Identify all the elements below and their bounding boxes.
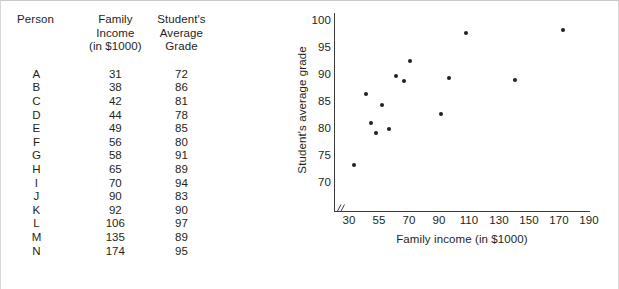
- table-row: N17495: [9, 245, 214, 259]
- table-row: G5891: [9, 149, 214, 163]
- table-row: D4478: [9, 109, 214, 123]
- table-row: J9083: [9, 190, 214, 204]
- table-cell-income: 135: [82, 231, 149, 245]
- table-cell-grade: 91: [149, 149, 214, 163]
- data-point: [387, 127, 391, 131]
- table-cell-income: 65: [82, 163, 149, 177]
- x-tick-label: 190: [574, 215, 604, 227]
- table-row: A3172: [9, 56, 214, 82]
- table-cell-income: 44: [82, 109, 149, 123]
- table-cell-grade: 81: [149, 95, 214, 109]
- table-cell-income: 31: [82, 56, 149, 82]
- column-header-family-income: Family Income (in $1000): [82, 13, 149, 56]
- table-cell-grade: 80: [149, 136, 214, 150]
- table-cell-grade: 95: [149, 245, 214, 259]
- table-cell-grade: 72: [149, 56, 214, 82]
- x-axis-line: [334, 211, 590, 212]
- table-cell-grade: 85: [149, 122, 214, 136]
- table-row: E4985: [9, 122, 214, 136]
- table-cell-person: C: [9, 95, 82, 109]
- column-header-grade-line1: Student's: [149, 13, 214, 27]
- table-cell-income: 56: [82, 136, 149, 150]
- table-cell-grade: 97: [149, 217, 214, 231]
- table-cell-income: 49: [82, 122, 149, 136]
- x-tick-label: 90: [424, 215, 454, 227]
- table-cell-income: 42: [82, 95, 149, 109]
- data-point: [369, 121, 373, 125]
- table-row: B3886: [9, 81, 214, 95]
- table-row: M13589: [9, 231, 214, 245]
- table-cell-income: 70: [82, 177, 149, 191]
- table-body: A3172B3886C4281D4478E4985F5680G5891H6589…: [9, 56, 214, 258]
- x-tick-label: 150: [514, 215, 544, 227]
- table-cell-person: M: [9, 231, 82, 245]
- table-cell-grade: 78: [149, 109, 214, 123]
- table-cell-grade: 83: [149, 190, 214, 204]
- plot-area: 707580859095100 30557090110130150170190 …: [286, 1, 619, 289]
- table-header-row: Person Family Income (in $1000) Student'…: [9, 13, 214, 56]
- table-cell-income: 90: [82, 190, 149, 204]
- column-header-grade-line3: Grade: [149, 40, 214, 54]
- table-cell-income: 38: [82, 81, 149, 95]
- x-tick-label: 30: [334, 215, 364, 227]
- table-cell-grade: 90: [149, 204, 214, 218]
- x-tick-label: 110: [454, 215, 484, 227]
- column-header-person: Person: [9, 13, 82, 56]
- table-row: H6589: [9, 163, 214, 177]
- table-cell-grade: 94: [149, 177, 214, 191]
- table-cell-person: A: [9, 56, 82, 82]
- table-cell-person: D: [9, 109, 82, 123]
- table: Person Family Income (in $1000) Student'…: [9, 13, 214, 258]
- x-tick-label: 70: [394, 215, 424, 227]
- column-header-person-line1: Person: [17, 13, 82, 27]
- table-cell-income: 106: [82, 217, 149, 231]
- x-tick-label: 130: [484, 215, 514, 227]
- column-header-income-line3: (in $1000): [82, 40, 149, 54]
- table-cell-person: I: [9, 177, 82, 191]
- scatter-plot: 707580859095100 30557090110130150170190 …: [286, 1, 619, 289]
- table-cell-person: N: [9, 245, 82, 259]
- table-cell-income: 174: [82, 245, 149, 259]
- table-cell-person: J: [9, 190, 82, 204]
- table-cell-person: E: [9, 122, 82, 136]
- table-cell-grade: 89: [149, 163, 214, 177]
- x-tick-label: 170: [544, 215, 574, 227]
- data-point: [561, 28, 565, 32]
- data-point: [513, 78, 517, 82]
- data-point: [352, 163, 356, 167]
- table-cell-person: K: [9, 204, 82, 218]
- data-point: [464, 31, 468, 35]
- column-header-income-line1: Family: [82, 13, 149, 27]
- table-cell-person: G: [9, 149, 82, 163]
- column-header-income-line2: Income: [82, 27, 149, 41]
- income-grade-table: Person Family Income (in $1000) Student'…: [9, 13, 214, 258]
- table-cell-grade: 89: [149, 231, 214, 245]
- column-header-student-average-grade: Student's Average Grade: [149, 13, 214, 56]
- data-point: [380, 103, 384, 107]
- column-header-grade-line2: Average: [149, 27, 214, 41]
- data-point: [374, 131, 378, 135]
- table-row: K9290: [9, 204, 214, 218]
- table-row: C4281: [9, 95, 214, 109]
- table-cell-grade: 86: [149, 81, 214, 95]
- data-point: [402, 79, 406, 83]
- table-row: F5680: [9, 136, 214, 150]
- y-axis-line: [334, 13, 335, 212]
- y-axis-title: Student's average grade: [296, 25, 308, 195]
- table-cell-person: F: [9, 136, 82, 150]
- table-cell-person: L: [9, 217, 82, 231]
- x-axis-title: Family income (in $1000): [334, 233, 590, 245]
- data-point: [394, 74, 398, 78]
- table-row: I7094: [9, 177, 214, 191]
- x-tick-label: 55: [364, 215, 394, 227]
- table-cell-person: H: [9, 163, 82, 177]
- table-cell-income: 92: [82, 204, 149, 218]
- data-point: [439, 112, 443, 116]
- table-header: Person Family Income (in $1000) Student'…: [9, 13, 214, 56]
- table-row: L10697: [9, 217, 214, 231]
- axis-break-icon: [336, 204, 346, 213]
- data-point: [447, 76, 451, 80]
- data-point: [364, 92, 368, 96]
- data-point: [408, 59, 412, 63]
- figure-container: Person Family Income (in $1000) Student'…: [0, 0, 619, 289]
